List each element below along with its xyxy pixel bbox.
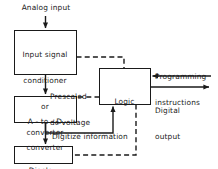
label-line: output <box>155 133 205 142</box>
label-line: Programming <box>155 73 218 82</box>
box-line: Display <box>14 167 72 169</box>
label-line: Digital <box>155 107 205 116</box>
label-digitize-information: Digitize information <box>52 133 136 142</box>
diagram-canvas: Analog input Input signal conditioner or… <box>0 0 218 169</box>
box-label-display: Display <box>14 150 72 169</box>
box-line: Logic <box>99 98 150 107</box>
box-line: A - to - D <box>14 118 76 127</box>
box-line: Input signal <box>14 51 76 60</box>
label-analog-input: Analog input <box>14 4 78 13</box>
connector-conditioner-to-logic <box>77 57 125 69</box>
label-digital-output: Digital output <box>155 90 205 159</box>
box-label-logic: Logic <box>99 81 150 124</box>
